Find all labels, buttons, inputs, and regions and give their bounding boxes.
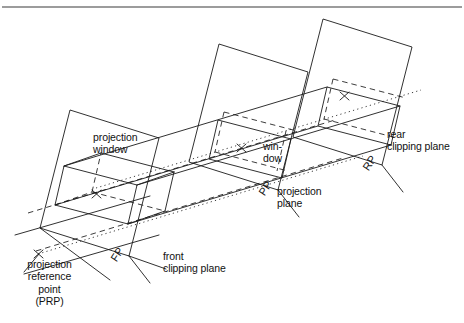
rear-clipping-plane-label: rear clipping plane xyxy=(387,128,450,153)
projection-plane-shape xyxy=(189,44,308,190)
projection-window-label: projection window xyxy=(93,131,138,156)
front-box-back-right xyxy=(165,172,174,211)
projection-plane-group xyxy=(189,44,308,190)
front-clipping-plane-label: front clipping plane xyxy=(163,250,226,275)
front-box-hidden-bottom xyxy=(92,192,165,211)
center-axis-group xyxy=(38,90,421,254)
front-box-back-top xyxy=(101,153,174,172)
hidden-construction-dashes xyxy=(28,79,406,251)
rp-tag-leader xyxy=(382,165,403,192)
figure-canvas: projection window win- dow projection pl… xyxy=(0,0,464,323)
window-label: win- dow xyxy=(263,140,282,165)
axis-cross-marks xyxy=(34,92,349,258)
view-axis-dotted-upper xyxy=(96,90,421,188)
projection-plane-label: projection plane xyxy=(277,185,322,210)
window-hidden-top-edge xyxy=(224,112,297,131)
projection-reference-point-label: projection reference point (PRP) xyxy=(2,258,97,308)
rear-window-drop-left xyxy=(324,79,333,119)
front-box-hidden-left xyxy=(92,153,101,192)
